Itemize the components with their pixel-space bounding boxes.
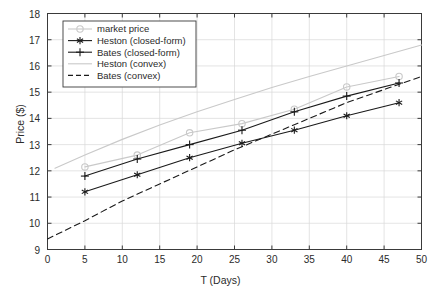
x-tick-label: 35 (304, 254, 315, 265)
series-bates-closed-form (81, 79, 403, 180)
x-tick-label: 5 (82, 254, 88, 265)
chart-figure: market priceHeston (closed-form)Bates (c… (0, 0, 441, 298)
x-axis-label: T (Days) (0, 274, 441, 286)
y-tick-label: 14 (14, 113, 40, 124)
y-tick-label: 11 (14, 192, 40, 203)
y-tick-label: 18 (14, 8, 40, 19)
x-tick-label: 30 (266, 254, 277, 265)
legend-label: Heston (closed-form) (97, 35, 186, 46)
x-tick-label: 10 (117, 254, 128, 265)
y-tick-label: 10 (14, 218, 40, 229)
y-tick-label: 12 (14, 165, 40, 176)
y-tick-label: 17 (14, 34, 40, 45)
series-market-price (82, 73, 403, 170)
x-tick-label: 50 (416, 254, 427, 265)
x-tick-label: 40 (341, 254, 352, 265)
x-tick-label: 25 (229, 254, 240, 265)
legend: market priceHeston (closed-form)Bates (c… (63, 21, 196, 87)
y-tick-label: 16 (14, 60, 40, 71)
legend-label: Heston (convex) (97, 58, 166, 69)
legend-label: Bates (closed-form) (97, 47, 180, 58)
legend-label: Bates (convex) (97, 70, 160, 81)
y-tick-label: 13 (14, 139, 40, 150)
y-tick-label: 15 (14, 87, 40, 98)
x-tick-label: 45 (379, 254, 390, 265)
y-tick-label: 9 (14, 244, 40, 255)
plot-canvas: market priceHeston (closed-form)Bates (c… (0, 0, 441, 298)
x-tick-label: 0 (45, 254, 51, 265)
x-tick-label: 15 (154, 254, 165, 265)
x-tick-label: 20 (192, 254, 203, 265)
legend-label: market price (97, 23, 149, 34)
